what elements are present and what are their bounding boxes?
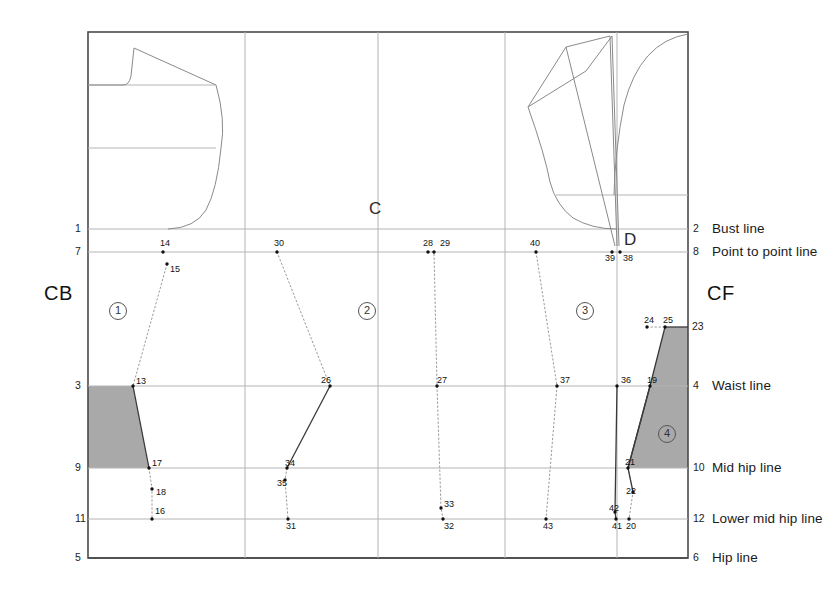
point-label-38: 38 [623,254,633,263]
mid-hip-line-right-number: 10 [693,462,705,473]
point-dot-38 [618,250,621,253]
point-label-14: 14 [160,239,170,248]
label-d: D [624,231,636,248]
point-label-41: 41 [612,522,622,531]
point-label-25: 25 [663,316,673,325]
point-to-point-line-left-number: 7 [75,246,81,257]
lower-mid-hip-line-left-number: 11 [75,513,86,524]
front-bodice-outline [528,34,688,246]
panel-badges-group [110,303,676,443]
label-c: C [369,200,381,217]
bust-line-left-number: 1 [75,223,81,234]
diagram-frame [88,32,688,558]
hip-line-label: Hip line [712,551,758,565]
dart-panel1 [133,264,167,386]
panel-4-label: 4 [657,428,677,439]
point-label-13: 13 [136,377,146,386]
point-label-22: 22 [626,487,636,496]
back-bodice-outline [88,48,223,229]
point-label-43: 43 [543,522,553,531]
hip-line-left-number: 5 [75,552,81,563]
point-label-32: 32 [444,522,454,531]
front-waist-shade [628,327,688,468]
back-waist-shade [88,386,149,468]
mid-hip-line-left-number: 9 [75,462,81,473]
point-label-31: 31 [286,522,296,531]
point-label-36: 36 [621,376,631,385]
front-shoulder-inner [528,36,612,107]
shaded-regions-group [88,327,688,468]
back-armhole [168,85,223,229]
point-label-35: 35 [277,479,287,488]
bust-line-right-number: 2 [693,223,699,234]
point-label-42: 42 [609,504,619,513]
point-dot-16 [150,517,153,520]
dart-panel1-lower [149,468,152,519]
seam-lines-group [133,327,688,519]
point-label-29: 29 [440,239,450,248]
point-dot-18 [150,487,153,490]
point-dot-40 [534,250,537,253]
front-neckline [614,34,688,195]
mid-hip-line-label: Mid hip line [712,461,781,475]
point-label-21: 21 [625,458,635,467]
front-armhole [528,107,616,229]
point-dot-25 [663,325,666,328]
center-front: CF [707,283,735,303]
point-label-19: 19 [647,376,657,385]
point-label-34: 34 [285,459,295,468]
waist-line-left-number: 3 [75,380,81,391]
point-dot-24 [645,325,648,328]
point-to-point-line-label: Point to point line [712,245,817,259]
panel-3-label: 3 [575,305,595,316]
point-dot-36 [615,384,618,387]
point-label-17: 17 [152,459,162,468]
back-neckline [88,48,134,85]
point-dot-28 [426,250,429,253]
panel-2-label: 2 [357,305,377,316]
point-label-15: 15 [170,265,180,274]
vertical-guide-lines [245,32,617,558]
point-dot-29 [432,250,435,253]
panel-1-label: 1 [108,305,128,316]
waist-line-label: Waist line [712,379,771,393]
point-label-20: 20 [626,522,636,531]
bust-line-label: Bust line [712,222,765,236]
front-shoulder-outer [528,36,610,107]
point-label-37: 37 [560,376,570,385]
point-dot-30 [275,250,278,253]
seam-26-34 [287,386,330,468]
point-dot-33 [439,506,442,509]
front-dart-left [566,47,615,246]
point-label-26: 26 [321,376,331,385]
point-dot-37 [555,384,558,387]
point-dot-14 [161,250,164,253]
point-label-24: 24 [644,316,654,325]
horizontal-guide-lines [88,229,688,558]
point-dot-15 [165,262,168,265]
point-label-39: 39 [605,254,615,263]
point-to-point-line-right-number: 8 [693,246,699,257]
point-label-18: 18 [156,488,166,497]
point-label-28: 28 [423,239,433,248]
point-label-40: 40 [530,239,540,248]
point-label-27: 27 [437,376,447,385]
point-label-33: 33 [444,500,454,509]
center-back: CB [44,283,73,303]
back-shoulder [134,48,216,85]
dart-panel2-lower [285,468,288,519]
point-label-30: 30 [274,239,284,248]
waist-line-right-number: 4 [693,380,699,391]
point-dot-13 [131,384,134,387]
point-dot-17 [147,466,150,469]
dart-panel2 [277,252,330,386]
lower-mid-hip-line-right-number: 12 [693,513,705,524]
lower-mid-hip-line-label: Lower mid hip line [712,512,823,526]
mark-23: 23 [692,321,704,332]
point-label-16: 16 [155,507,165,516]
hip-line-right-number: 6 [693,552,699,563]
